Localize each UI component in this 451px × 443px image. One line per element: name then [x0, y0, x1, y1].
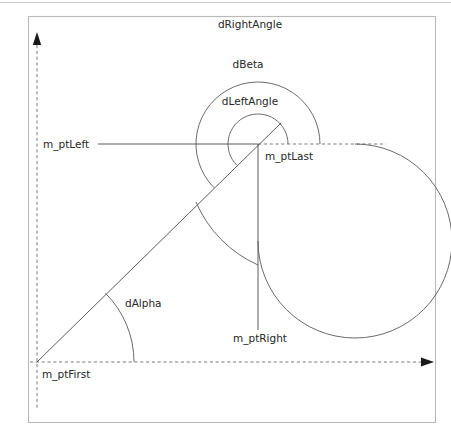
- alpha-diagonal-ray: [37, 123, 281, 362]
- y-axis-arrowhead: [33, 32, 41, 45]
- diagram-root: dRightAngle dBeta dLeftAngle m_ptLeft m_…: [0, 0, 451, 443]
- label-m-pt-first: m_ptFirst: [42, 368, 90, 381]
- label-d-beta: dBeta: [233, 58, 264, 70]
- label-d-alpha: dAlpha: [125, 297, 162, 309]
- x-axis-arrowhead: [421, 358, 434, 367]
- label-m-pt-last: m_ptLast: [265, 150, 313, 163]
- angle-construction-diagram: dRightAngle dBeta dLeftAngle m_ptLeft m_…: [0, 0, 451, 443]
- arc-d-right-angle: [258, 144, 451, 338]
- label-d-right-angle: dRightAngle: [218, 18, 282, 30]
- label-m-pt-left: m_ptLeft: [43, 138, 89, 151]
- label-d-left-angle: dLeftAngle: [222, 95, 278, 107]
- label-m-pt-right: m_ptRight: [233, 332, 287, 345]
- arc-d-beta-lower: [196, 202, 258, 265]
